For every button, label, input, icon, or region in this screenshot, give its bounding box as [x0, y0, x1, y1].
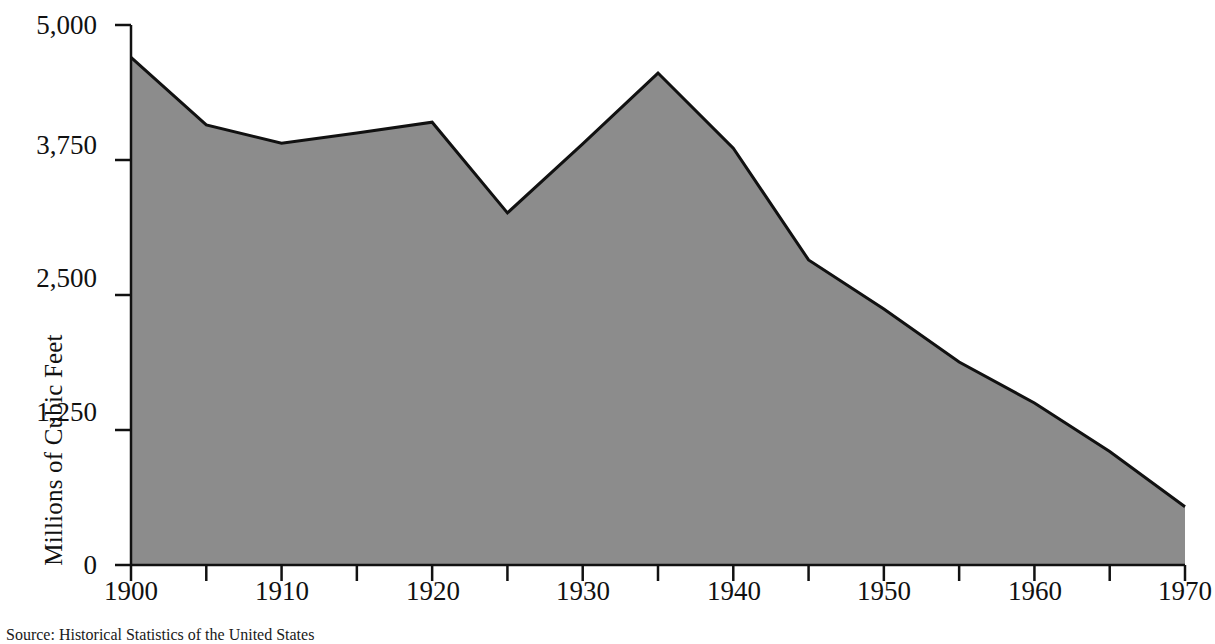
x-axis-tick-labels: 1900 1910 1920 1930 1940 1950 1960 1970	[0, 578, 1215, 614]
x-tick-label-1950: 1950	[857, 578, 911, 605]
y-axis-ticks	[115, 25, 131, 565]
y-tick-label-0: 0	[84, 552, 98, 579]
y-tick-label-1250: 1,250	[36, 399, 97, 426]
source-note: Source: Historical Statistics of the Uni…	[6, 626, 314, 644]
x-tick-label-1930: 1930	[556, 578, 610, 605]
area-chart-plot	[0, 0, 1215, 644]
x-tick-label-1910: 1910	[255, 578, 309, 605]
x-tick-label-1970: 1970	[1158, 578, 1212, 605]
x-tick-label-1960: 1960	[1008, 578, 1062, 605]
area-series-lumber-production	[131, 57, 1185, 565]
plot-area	[131, 57, 1185, 565]
y-tick-label-3750: 3,750	[36, 132, 97, 159]
y-tick-label-5000: 5,000	[36, 12, 97, 39]
x-tick-label-1900: 1900	[104, 578, 158, 605]
chart-container: Millions of Cubic Feet 5,000 3,750 2,500…	[0, 0, 1215, 644]
y-axis-tick-labels: 5,000 3,750 2,500 1,250 0	[0, 0, 97, 644]
x-tick-label-1920: 1920	[406, 578, 460, 605]
x-tick-label-1940: 1940	[707, 578, 761, 605]
y-tick-label-2500: 2,500	[36, 265, 97, 292]
